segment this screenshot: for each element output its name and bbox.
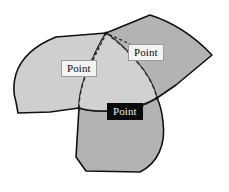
- vertex-bottom-junction: [77, 106, 80, 109]
- point-label-right-text: Point: [134, 46, 158, 58]
- point-label-bottom-text: Point: [113, 105, 137, 117]
- venn-diagram-svg: [0, 0, 229, 192]
- vertex-top-junction: [104, 31, 107, 34]
- point-label-left[interactable]: Point: [61, 60, 97, 77]
- point-label-right[interactable]: Point: [128, 44, 164, 61]
- point-label-left-text: Point: [67, 62, 91, 74]
- point-label-bottom[interactable]: Point: [107, 103, 143, 120]
- vertex-right-junction: [155, 96, 158, 99]
- diagram-canvas: Point Point Point: [0, 0, 229, 192]
